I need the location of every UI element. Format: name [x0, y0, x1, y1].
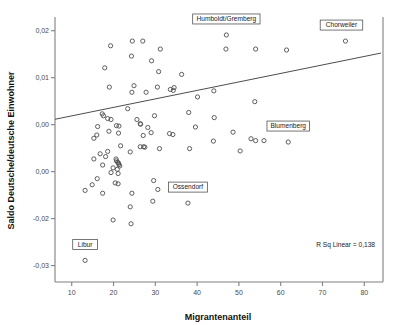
data-point: [187, 147, 191, 151]
data-point: [152, 114, 156, 118]
callout-label: Blumenberg: [270, 122, 306, 130]
data-point: [103, 66, 107, 70]
data-point: [111, 166, 115, 170]
data-point: [128, 150, 132, 154]
data-point: [126, 107, 130, 111]
data-point: [157, 70, 161, 74]
data-point: [212, 89, 216, 93]
data-point: [156, 187, 160, 191]
data-point: [343, 39, 347, 43]
callout-label: Chorweiler: [326, 21, 358, 28]
data-point: [95, 133, 99, 137]
data-point: [83, 258, 87, 262]
data-point: [262, 139, 266, 143]
data-point: [211, 139, 215, 143]
data-point: [284, 48, 288, 52]
data-point: [103, 155, 107, 159]
data-point: [130, 191, 134, 195]
data-point: [129, 222, 133, 226]
data-point: [135, 117, 139, 121]
data-point: [224, 33, 228, 37]
callout-label: Ossendorf: [173, 183, 204, 190]
y-tick-label: -0,03: [33, 262, 49, 269]
data-point: [254, 139, 258, 143]
data-point: [111, 218, 115, 222]
data-point: [149, 131, 153, 135]
point-callout: Ossendorf: [168, 182, 207, 192]
data-point: [90, 183, 94, 187]
data-point: [151, 199, 155, 203]
data-point: [95, 177, 99, 181]
callout-label: Humboldt/Gremberg: [196, 15, 256, 23]
chart-canvas: 0,020,010,000,00-0,02-0,0310203040506070…: [0, 0, 397, 325]
data-point: [129, 54, 133, 58]
data-point: [109, 170, 113, 174]
data-point: [83, 188, 87, 192]
data-point: [180, 72, 184, 76]
x-tick-label: 30: [151, 289, 159, 296]
x-tick-label: 50: [235, 289, 243, 296]
data-point: [149, 59, 153, 63]
data-point: [117, 124, 121, 128]
data-point: [106, 149, 110, 153]
data-point: [116, 131, 120, 135]
data-point: [141, 39, 145, 43]
data-point: [193, 125, 197, 129]
data-point: [146, 125, 150, 129]
data-point: [144, 90, 148, 94]
y-tick-label: 0,00: [35, 121, 49, 128]
x-tick-label: 20: [110, 289, 118, 296]
r-squared-annotation: R Sq Linear = 0,138: [316, 241, 375, 249]
data-point: [157, 147, 161, 151]
data-point: [254, 47, 258, 51]
data-point: [212, 116, 216, 120]
x-axis-title: Migrantenanteil: [185, 312, 252, 322]
x-tick-label: 10: [68, 289, 76, 296]
x-tick-label: 70: [319, 289, 327, 296]
data-point: [96, 124, 100, 128]
x-tick-label: 80: [360, 289, 368, 296]
callout-label: Libur: [78, 241, 93, 248]
scatter-plot-figure: 0,020,010,000,00-0,02-0,0310203040506070…: [0, 0, 397, 325]
point-callout: Blumenberg: [267, 121, 310, 131]
data-point: [186, 201, 190, 205]
y-tick-label: -0,02: [33, 215, 49, 222]
data-point: [108, 44, 112, 48]
data-point: [155, 85, 159, 89]
y-tick-label: 0,02: [35, 27, 49, 34]
y-axis-title: Saldo Deutsche/deutsche Einwohner: [6, 71, 16, 230]
data-point: [152, 178, 156, 182]
y-tick-label: 0,00: [35, 168, 49, 175]
data-point: [130, 90, 134, 94]
data-point: [158, 47, 162, 51]
data-point: [249, 137, 253, 141]
point-callout: Chorweiler: [320, 20, 363, 30]
x-tick-label: 60: [277, 289, 285, 296]
data-point: [101, 191, 105, 195]
data-point: [130, 39, 134, 43]
data-point: [253, 100, 257, 104]
data-point: [286, 140, 290, 144]
data-point: [119, 144, 123, 148]
data-point: [195, 95, 199, 99]
data-point: [224, 47, 228, 51]
data-point: [231, 130, 235, 134]
data-point: [187, 110, 191, 114]
data-point: [116, 171, 120, 175]
point-callout: Humboldt/Gremberg: [193, 14, 260, 24]
data-point: [101, 163, 105, 167]
y-tick-label: 0,01: [35, 74, 49, 81]
data-point: [128, 205, 132, 209]
x-tick-label: 40: [193, 289, 201, 296]
data-point: [132, 84, 136, 88]
data-point: [92, 157, 96, 161]
data-point: [141, 133, 145, 137]
data-point: [107, 129, 111, 133]
regression-line: [55, 53, 381, 119]
data-point: [98, 152, 102, 156]
point-callout: Libur: [73, 239, 98, 249]
data-point: [107, 85, 111, 89]
data-point: [238, 149, 242, 153]
data-point: [172, 85, 176, 89]
